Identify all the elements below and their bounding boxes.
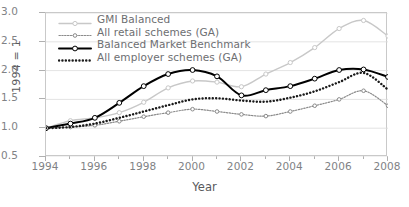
y-tick-label: 3.0 (0, 5, 18, 17)
legend-item[interactable]: GMI Balanced (58, 13, 251, 26)
data-point (166, 86, 170, 90)
data-point (190, 79, 194, 83)
y-tick-label: 0.5 (0, 149, 18, 161)
legend-label: Balanced Market Benchmark (97, 38, 251, 50)
x-tick-label: 1994 (25, 160, 65, 172)
x-tick-label: 2000 (172, 160, 212, 172)
data-point (386, 34, 388, 38)
data-point (264, 114, 268, 118)
data-point (386, 75, 388, 80)
data-point (313, 104, 317, 108)
legend-item[interactable]: Balanced Market Benchmark (58, 38, 251, 51)
data-point (215, 110, 219, 114)
data-point (239, 93, 244, 98)
data-point (215, 80, 219, 84)
data-point (288, 110, 292, 114)
x-axis-title: Year (0, 180, 409, 194)
y-tick-label: 1.0 (0, 120, 18, 132)
y-tick-label: 2.0 (0, 63, 18, 75)
data-point (337, 26, 341, 30)
data-point (337, 98, 341, 102)
x-tick-label: 1996 (74, 160, 114, 172)
data-point (215, 74, 220, 79)
data-point (166, 111, 170, 115)
y-tick-label: 1.5 (0, 91, 18, 103)
data-point (362, 89, 366, 93)
data-point (142, 100, 146, 104)
data-point (312, 76, 317, 81)
legend-swatch-icon (58, 26, 92, 37)
data-point (386, 104, 388, 108)
x-tick-label: 2004 (269, 160, 309, 172)
data-point (264, 72, 268, 76)
data-point (337, 68, 342, 73)
data-point (166, 72, 171, 77)
legend-swatch-icon (58, 51, 92, 62)
data-point (361, 67, 366, 72)
data-point (288, 60, 292, 64)
chart-figure: 1994 = 1 3.02.52.01.51.00.5 199419961998… (0, 0, 409, 207)
legend-swatch-icon (58, 14, 92, 25)
data-point (141, 84, 146, 89)
legend-item[interactable]: All retail schemes (GA) (58, 26, 251, 39)
data-point (191, 107, 195, 111)
data-point (288, 84, 293, 89)
chart-legend: GMI BalancedAll retail schemes (GA)Balan… (58, 13, 251, 63)
x-tick-label: 2006 (318, 160, 358, 172)
data-point (117, 100, 122, 105)
data-point (117, 111, 121, 115)
legend-label: All employer schemes (GA) (97, 51, 242, 63)
x-tick-label: 2002 (220, 160, 260, 172)
x-tick-label: 2008 (367, 160, 407, 172)
data-point (190, 68, 195, 73)
legend-item[interactable]: All employer schemes (GA) (58, 51, 251, 64)
data-point (313, 45, 317, 49)
x-tick-label: 1998 (123, 160, 163, 172)
data-point (263, 88, 268, 93)
data-point (117, 119, 121, 123)
legend-swatch-icon (58, 39, 92, 50)
data-point (239, 85, 243, 89)
data-point (240, 113, 244, 117)
data-point (92, 115, 97, 120)
y-tick-label: 2.5 (0, 34, 18, 46)
legend-label: GMI Balanced (97, 13, 170, 25)
legend-label: All retail schemes (GA) (97, 26, 219, 38)
data-point (361, 18, 365, 22)
data-point (68, 121, 73, 126)
data-point (142, 115, 146, 119)
